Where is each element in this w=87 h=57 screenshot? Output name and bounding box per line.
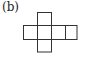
cube-net-diagram (0, 0, 87, 57)
net-square (52, 26, 66, 40)
net-square (38, 13, 52, 26)
net-square (66, 26, 78, 40)
net-square (24, 26, 38, 40)
net-square (38, 26, 52, 40)
net-square (38, 40, 52, 53)
